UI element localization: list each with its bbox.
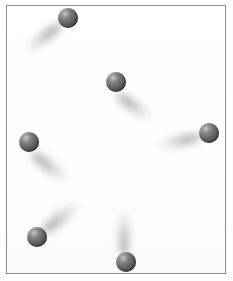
scene-canvas (0, 0, 233, 281)
sphere-top (58, 8, 78, 28)
sphere-left (19, 132, 39, 152)
sphere-scene-layer (0, 0, 233, 281)
sphere-right (199, 123, 219, 143)
sphere-shadow (157, 129, 203, 154)
sphere-shadow (117, 209, 132, 257)
sphere-shadow (112, 87, 156, 125)
sphere-upper-middle (106, 72, 126, 92)
sphere-bottom-left (27, 227, 47, 247)
sphere-bottom-middle (116, 252, 136, 272)
sphere-shadow (26, 146, 71, 186)
